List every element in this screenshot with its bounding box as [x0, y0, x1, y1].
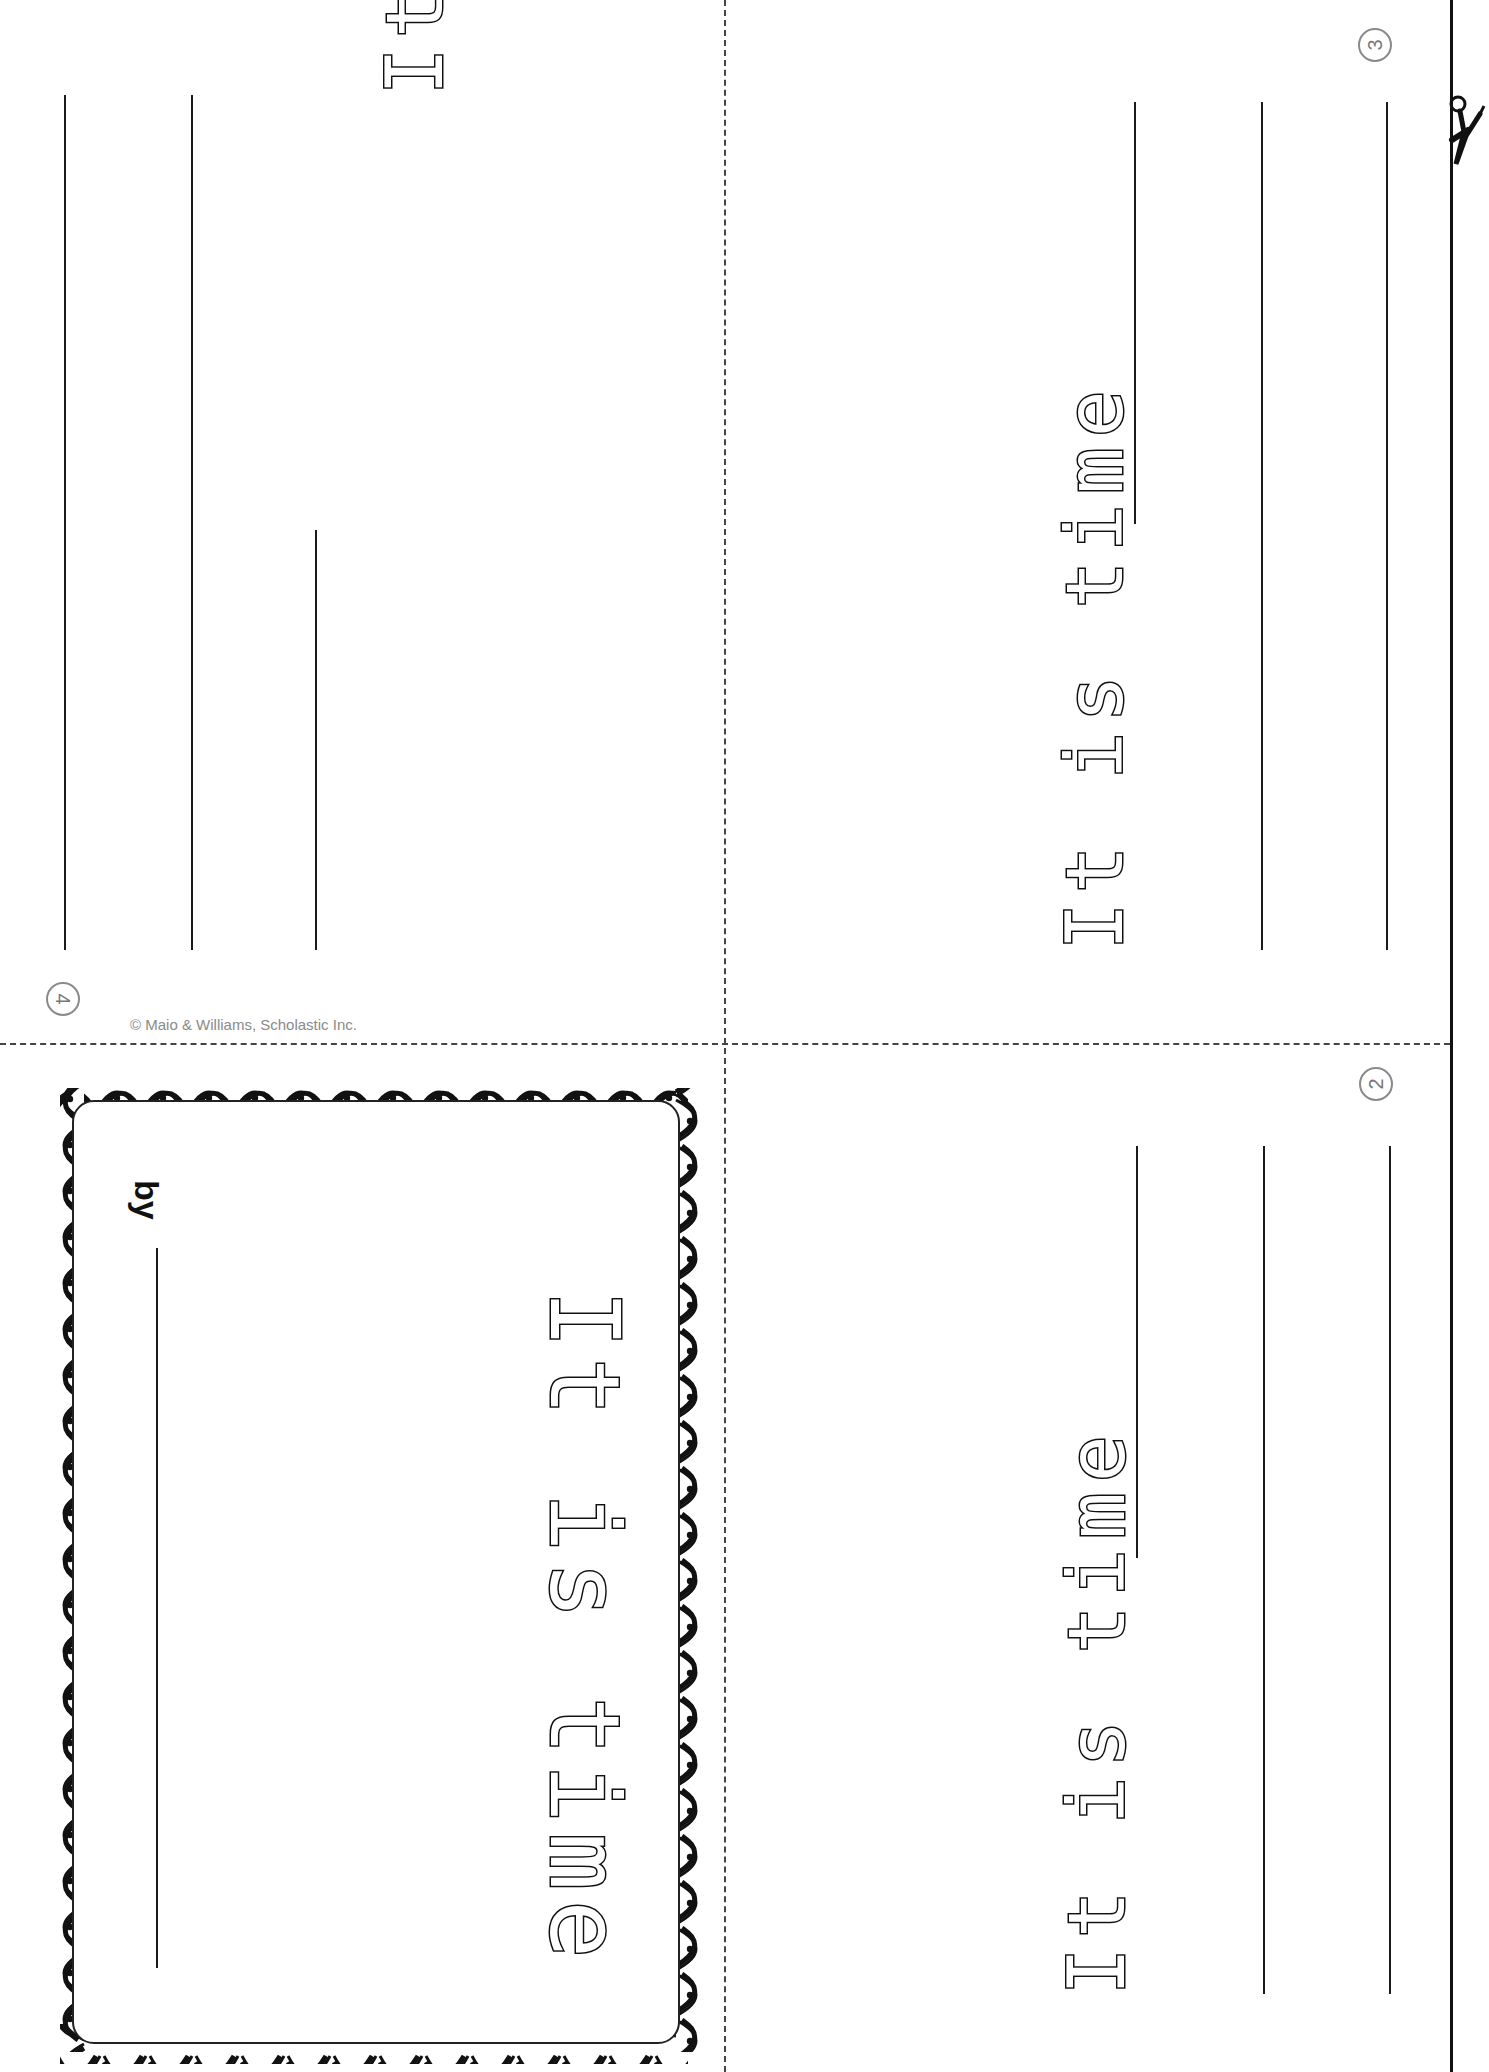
- traceable-prompt: It is time: [1050, 380, 1140, 950]
- scissors-icon: [1446, 92, 1486, 176]
- writing-line: [315, 530, 317, 950]
- traceable-prompt: It is time: [370, 0, 460, 95]
- page-number-3: 3: [1358, 28, 1392, 62]
- page-number-4: 4: [46, 982, 80, 1016]
- writing-line: [1261, 102, 1263, 950]
- traceable-prompt: It is time: [1052, 1425, 1142, 1995]
- writing-line: [1389, 1146, 1391, 1994]
- page-number-2: 2: [1359, 1067, 1393, 1101]
- vertical-fold-line: [724, 0, 726, 2072]
- byline-label: by: [127, 1180, 166, 1220]
- writing-line: [1386, 102, 1388, 950]
- writing-line: [64, 95, 66, 950]
- writing-line: [1263, 1146, 1265, 1994]
- solid-cut-line: [1450, 0, 1453, 2072]
- copyright-text: © Maio & Williams, Scholastic Inc.: [130, 1016, 357, 1033]
- author-name-line: [156, 1248, 158, 1968]
- writing-line: [191, 95, 193, 950]
- cover-title: It is time: [528, 1290, 640, 1968]
- horizontal-fold-line: [0, 1043, 1450, 1045]
